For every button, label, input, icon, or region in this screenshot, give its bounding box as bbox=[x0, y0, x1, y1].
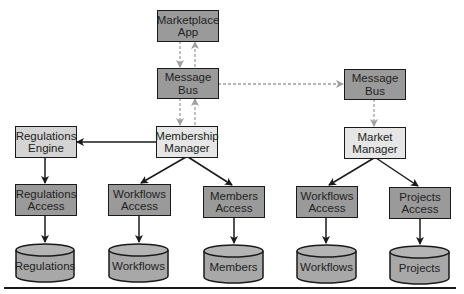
node-label: Regulations bbox=[16, 188, 77, 201]
market-manager-node: MarketManager bbox=[344, 127, 406, 159]
node-label: Workflows bbox=[113, 188, 166, 201]
node-label: Workflows bbox=[301, 190, 354, 203]
node-label: Access bbox=[301, 202, 354, 215]
node-label: Projects bbox=[399, 191, 441, 204]
store-workflows-left-label: Workflows bbox=[108, 260, 169, 272]
store-projects-label: Projects bbox=[389, 262, 450, 274]
node-label: Access bbox=[210, 202, 258, 215]
message-bus-right-node: MessageBus bbox=[344, 69, 406, 100]
node-label: Message bbox=[352, 72, 399, 85]
node-label: Members bbox=[210, 190, 258, 203]
store-members-label: Members bbox=[203, 261, 264, 273]
node-label: Bus bbox=[165, 84, 212, 97]
bottom-divider bbox=[4, 287, 456, 289]
arrow-membership-to-members bbox=[188, 157, 232, 185]
node-label: Access bbox=[399, 203, 441, 216]
node-label: Market bbox=[352, 131, 397, 144]
node-label: App bbox=[157, 26, 220, 39]
node-label: Manager bbox=[352, 143, 397, 156]
store-regulations-label: Regulations bbox=[14, 260, 76, 272]
regulations-engine-node: RegulationsEngine bbox=[15, 126, 77, 158]
arrow-membership-to-workflows bbox=[141, 157, 186, 183]
arrow-market-to-workflows bbox=[329, 158, 374, 185]
node-label: Access bbox=[16, 200, 77, 213]
regulations-access-node: RegulationsAccess bbox=[15, 184, 77, 216]
workflows-access-right-node: WorkflowsAccess bbox=[296, 186, 358, 218]
store-workflows-right-label: Workflows bbox=[296, 261, 357, 273]
node-label: Message bbox=[165, 71, 212, 84]
membership-manager-node: MembershipManager bbox=[156, 126, 218, 158]
node-label: Marketplace bbox=[157, 14, 220, 27]
node-label: Bus bbox=[352, 85, 399, 98]
marketplace-app-node: MarketplaceApp bbox=[157, 10, 219, 42]
node-label: Membership bbox=[155, 130, 218, 143]
message-bus-left-node: MessageBus bbox=[157, 68, 219, 99]
workflows-access-left-node: WorkflowsAccess bbox=[108, 184, 171, 216]
members-access-node: MembersAccess bbox=[203, 186, 265, 218]
arrow-market-to-projects bbox=[376, 158, 418, 186]
node-label: Regulations bbox=[16, 130, 77, 143]
node-label: Engine bbox=[16, 142, 77, 155]
projects-access-node: ProjectsAccess bbox=[389, 187, 451, 219]
node-label: Access bbox=[113, 200, 166, 213]
node-label: Manager bbox=[155, 142, 218, 155]
